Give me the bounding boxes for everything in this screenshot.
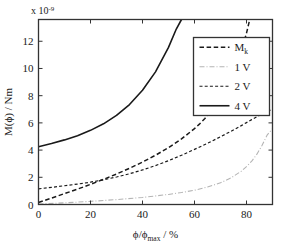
y-tick-label: 12 bbox=[23, 35, 34, 47]
x-tick-label: 0 bbox=[36, 208, 42, 220]
y-axis-exponent-label: x 10-9 bbox=[31, 5, 55, 17]
x-tick-label: 40 bbox=[137, 208, 149, 220]
x-tick-label: 60 bbox=[189, 208, 201, 220]
y-tick-label: 6 bbox=[28, 117, 34, 129]
series-line-1-v bbox=[39, 129, 273, 204]
x-axis-title: ϕ/ϕmax / % bbox=[133, 228, 178, 243]
chart-figure: 020406080024681012x 10-9ϕ/ϕmax / %M(ϕ) /… bbox=[0, 0, 281, 249]
series-line-2-v bbox=[39, 109, 273, 189]
x-tick-label: 80 bbox=[241, 208, 253, 220]
y-tick-label: 4 bbox=[28, 144, 34, 156]
legend-label-4-v: 4 V bbox=[235, 100, 251, 112]
y-axis-title: M(ϕ) / Nm bbox=[2, 88, 15, 136]
y-tick-label: 8 bbox=[28, 90, 34, 102]
x-tick-label: 20 bbox=[85, 208, 97, 220]
series-line-4-v bbox=[39, 20, 182, 147]
y-tick-label: 2 bbox=[28, 171, 34, 183]
y-tick-label: 0 bbox=[28, 199, 34, 211]
chart-svg: 020406080024681012x 10-9ϕ/ϕmax / %M(ϕ) /… bbox=[0, 0, 281, 249]
legend-label-2-v: 2 V bbox=[235, 80, 251, 92]
legend-label-1-v: 1 V bbox=[235, 61, 251, 73]
legend-box bbox=[194, 38, 270, 116]
y-tick-label: 10 bbox=[23, 62, 35, 74]
